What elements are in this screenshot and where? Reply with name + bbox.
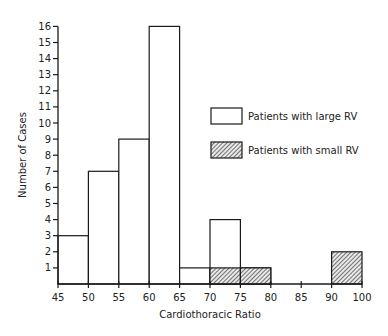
x-tick-label: 85	[295, 292, 308, 303]
y-tick-label: 13	[38, 69, 51, 80]
x-tick-label: 65	[173, 292, 186, 303]
x-tick-label: 80	[264, 292, 277, 303]
histogram-chart: 4550556065707580859010012345678910111213…	[0, 0, 388, 336]
bar-small-rv	[240, 268, 270, 284]
legend-swatch-hatched	[211, 142, 242, 158]
x-tick-label: 70	[204, 292, 217, 303]
y-tick-label: 5	[45, 198, 51, 209]
y-tick-label: 15	[38, 37, 51, 48]
x-axis-label: Cardiothoracic Ratio	[159, 309, 261, 320]
bar-small-rv	[210, 268, 240, 284]
y-tick-label: 14	[38, 53, 51, 64]
bar-large-rv	[58, 236, 88, 284]
y-tick-label: 9	[45, 134, 51, 145]
bar-large-rv	[119, 139, 149, 284]
y-tick-label: 1	[45, 262, 51, 273]
y-tick-label: 7	[45, 166, 51, 177]
y-tick-label: 16	[38, 21, 51, 32]
x-tick-label: 45	[52, 292, 65, 303]
bar-large-rv	[149, 26, 179, 284]
y-tick-label: 10	[38, 118, 51, 129]
x-tick-label: 90	[325, 292, 338, 303]
legend-label: Patients with small RV	[248, 145, 359, 156]
bar-large-rv	[88, 171, 118, 284]
bar-small-rv	[332, 252, 362, 284]
y-tick-label: 8	[45, 150, 51, 161]
x-tick-label: 75	[234, 292, 247, 303]
x-tick-label: 55	[112, 292, 125, 303]
y-tick-label: 2	[45, 246, 51, 257]
x-tick-label: 100	[352, 292, 371, 303]
y-tick-label: 3	[45, 230, 51, 241]
legend-label: Patients with large RV	[248, 111, 358, 122]
chart-canvas: 4550556065707580859010012345678910111213…	[0, 0, 388, 336]
y-axis-label: Number of Cases	[17, 112, 28, 198]
x-tick-label: 60	[143, 292, 156, 303]
y-tick-label: 4	[45, 214, 51, 225]
legend: Patients with large RVPatients with smal…	[211, 108, 359, 158]
y-tick-label: 12	[38, 85, 51, 96]
y-tick-label: 11	[38, 101, 51, 112]
y-tick-label: 6	[45, 182, 51, 193]
bar-large-rv	[180, 268, 210, 284]
legend-swatch-open	[211, 108, 242, 124]
x-tick-label: 50	[82, 292, 95, 303]
